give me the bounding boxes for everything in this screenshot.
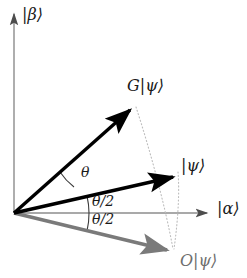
- beta-axis-label: |β⟩: [22, 7, 43, 23]
- vector-o-psi: [14, 213, 167, 250]
- theta-arc: [60, 172, 74, 187]
- alpha-axis-label: |α⟩: [217, 201, 239, 217]
- vector-label-psi: |ψ⟩: [181, 158, 205, 174]
- vector-label-o-psi: O|ψ⟩: [180, 253, 217, 269]
- angle-label-theta: θ: [81, 165, 89, 179]
- theta-half-upper-arc: [87, 196, 89, 213]
- diagram-canvas: [0, 0, 247, 278]
- theta-half-lower-arc: [87, 213, 89, 231]
- dotted-arc-psi-to-opsi: [174, 172, 179, 249]
- angle-label-theta-half-lower: θ/2: [92, 212, 114, 226]
- vector-label-g-psi: G|ψ⟩: [127, 78, 164, 94]
- angle-label-theta-half-upper: θ/2: [92, 194, 114, 208]
- grover-geometry-figure: |β⟩ |α⟩ G|ψ⟩ |ψ⟩ O|ψ⟩ θ θ/2 θ/2: [0, 0, 247, 278]
